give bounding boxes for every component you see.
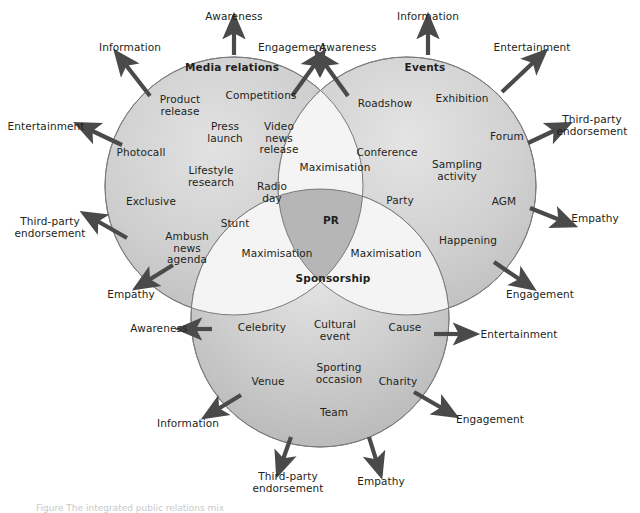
intersection-label-all-three: PR: [323, 215, 339, 227]
item-media-relations-radio-day: Radioday: [257, 181, 287, 204]
arrow-label-events-empathy: Empathy: [571, 213, 619, 225]
venn-diagram-figure: Media relationsProductreleaseCompetition…: [0, 0, 640, 513]
item-events-sampling-activity: Samplingactivity: [432, 159, 482, 182]
item-events-agm: AGM: [492, 196, 517, 208]
arrow-events-entertainment: [502, 58, 538, 92]
arrow-events-third-party-endorsement: [528, 128, 560, 143]
item-media-relations-photocall: Photocall: [117, 147, 166, 159]
arrow-media-relations-information: [122, 60, 150, 96]
item-events-exhibition: Exhibition: [435, 93, 488, 105]
item-media-relations-press-launch: Presslaunch: [207, 121, 243, 144]
item-media-relations-lifestyle-research: Lifestyleresearch: [188, 165, 234, 188]
arrow-label-sponsorship-third-party-endorsement: Third-partyendorsement: [252, 471, 323, 494]
arrow-label-sponsorship-information: Information: [157, 418, 219, 430]
item-sponsorship-charity: Charity: [379, 376, 418, 388]
figure-caption: Figure The integrated public relations m…: [36, 503, 224, 513]
intersection-label-media-sponsorship: Maximisation: [242, 248, 313, 260]
circle-title-events: Events: [405, 62, 446, 74]
item-sponsorship-team: Team: [320, 407, 348, 419]
arrow-events-empathy: [530, 208, 565, 222]
item-events-conference: Conference: [356, 147, 417, 159]
item-media-relations-ambush-news-agenda: Ambushnewsagenda: [165, 231, 208, 266]
arrow-label-events-information: Information: [397, 11, 459, 23]
arrow-label-events-entertainment: Entertainment: [493, 42, 570, 54]
circle-title-media-relations: Media relations: [185, 62, 279, 74]
arrow-label-sponsorship-engagement: Engagement: [456, 414, 524, 426]
intersection-label-media-events: Maximisation: [300, 162, 371, 174]
item-media-relations-competitions: Competitions: [226, 90, 297, 102]
arrow-label-media-relations-awareness: Awareness: [205, 11, 262, 23]
arrow-label-sponsorship-awareness: Awareness: [130, 323, 187, 335]
item-events-party: Party: [386, 195, 413, 207]
venn-diagram-canvas: [0, 0, 640, 513]
intersection-label-events-sponsorship: Maximisation: [351, 248, 422, 260]
arrow-label-media-relations-information: Information: [99, 42, 161, 54]
item-media-relations-video-news-release: Videonewsrelease: [260, 121, 299, 156]
item-media-relations-stunt: Stunt: [221, 218, 250, 230]
item-media-relations-exclusive: Exclusive: [126, 196, 176, 208]
arrow-label-media-relations-empathy: Empathy: [107, 289, 155, 301]
arrow-label-events-awareness: Awareness: [319, 42, 376, 54]
arrow-label-events-third-party-endorsement: Third-partyendorsement: [556, 114, 627, 137]
arrow-label-media-relations-third-party-endorsement: Third-partyendorsement: [14, 216, 85, 239]
arrow-label-sponsorship-entertainment: Entertainment: [480, 329, 557, 341]
arrow-label-events-engagement: Engagement: [506, 289, 574, 301]
item-sponsorship-venue: Venue: [251, 376, 284, 388]
arrow-sponsorship-empathy: [369, 437, 378, 466]
arrow-label-media-relations-engagement: Engagement: [258, 42, 326, 54]
circle-title-sponsorship: Sponsorship: [296, 273, 371, 285]
item-sponsorship-sporting-occasion: Sportingoccasion: [316, 362, 363, 385]
item-events-happening: Happening: [439, 235, 497, 247]
item-events-forum: Forum: [490, 131, 524, 143]
item-events-roadshow: Roadshow: [358, 98, 412, 110]
item-media-relations-product-release: Productrelease: [160, 94, 201, 117]
arrow-label-media-relations-entertainment: Entertainment: [7, 121, 84, 133]
item-sponsorship-cultural-event: Culturalevent: [314, 319, 356, 342]
item-sponsorship-cause: Cause: [389, 322, 422, 334]
arrow-label-sponsorship-empathy: Empathy: [357, 476, 405, 488]
item-sponsorship-celebrity: Celebrity: [238, 322, 286, 334]
